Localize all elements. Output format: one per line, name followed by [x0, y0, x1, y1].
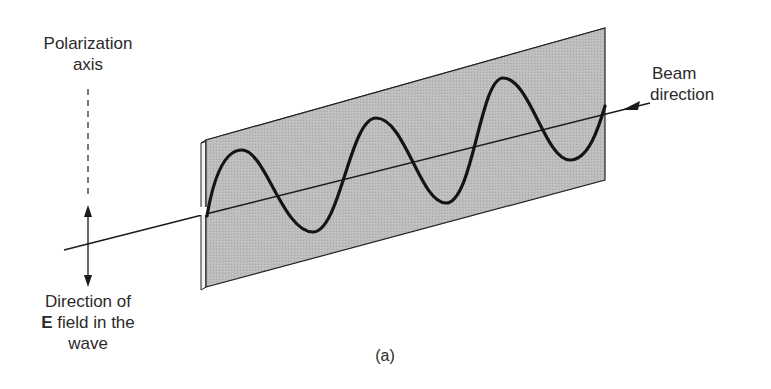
- e-field-label-line1: Direction of: [20, 291, 156, 312]
- polarization-axis-label-line1: Polarization: [22, 33, 154, 54]
- e-field-label-line2: E field in the: [20, 312, 156, 333]
- beam-arrowhead-icon: [622, 101, 640, 110]
- beam-line-left: [64, 214, 206, 250]
- beam-direction-label: Beam direction: [650, 63, 750, 105]
- e-field-label: Direction of E field in the wave: [20, 291, 156, 354]
- figure-caption: (a): [365, 345, 405, 366]
- beam-direction-label-line2: direction: [650, 84, 750, 105]
- e-field-label-line3: wave: [20, 333, 156, 354]
- e-field-direction-arrow-icon: [84, 205, 92, 287]
- e-field-symbol: E: [41, 313, 52, 332]
- polarizer-panel: [206, 28, 605, 287]
- beam-direction-label-line1: Beam: [650, 63, 750, 84]
- polarization-axis-label-line2: axis: [22, 54, 154, 75]
- polarization-axis-label: Polarization axis: [22, 33, 154, 75]
- e-field-label-line2-text: field in the: [53, 313, 135, 332]
